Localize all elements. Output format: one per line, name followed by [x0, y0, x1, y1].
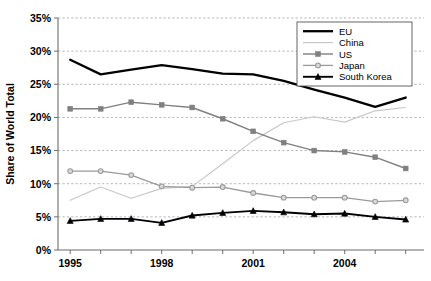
data-point-marker-square: [373, 155, 378, 160]
data-point-marker-diamond: [312, 195, 317, 200]
legend-label: South Korea: [339, 71, 393, 82]
data-point-marker-square: [190, 105, 195, 110]
data-point-marker-diamond: [251, 191, 256, 196]
chart-container: 0%5%10%15%20%25%30%35% 1995199820012004 …: [0, 0, 431, 281]
x-tick-label: 2004: [333, 257, 357, 269]
y-tick-label: 0%: [36, 244, 52, 256]
data-point-marker-square: [316, 52, 321, 57]
series-line: [70, 102, 406, 168]
y-axis-title: Share of World Total: [4, 83, 16, 185]
data-point-marker-diamond: [68, 169, 73, 174]
y-axis-ticks: 0%5%10%15%20%25%30%35%: [30, 12, 58, 256]
data-point-marker-diamond: [220, 185, 225, 190]
data-point-marker-square: [281, 140, 286, 145]
x-tick-label: 1998: [150, 257, 174, 269]
y-tick-label: 5%: [36, 211, 52, 223]
x-tick-label: 1995: [59, 257, 83, 269]
x-tick-label: 2001: [242, 257, 266, 269]
y-tick-label: 25%: [30, 78, 52, 90]
data-point-marker-diamond: [129, 173, 134, 178]
series-line: [70, 171, 406, 201]
series-japan: [68, 169, 408, 204]
chart-legend[interactable]: EUChinaUSJapanSouth Korea: [297, 22, 412, 86]
data-point-marker-diamond: [98, 169, 103, 174]
data-point-marker-square: [159, 102, 164, 107]
data-point-marker-square: [68, 106, 73, 111]
data-point-marker-diamond: [403, 198, 408, 203]
data-point-marker-square: [342, 149, 347, 154]
line-chart: 0%5%10%15%20%25%30%35% 1995199820012004 …: [0, 0, 431, 281]
legend-label: Japan: [339, 60, 365, 71]
data-point-marker-diamond: [159, 184, 164, 189]
data-point-marker-diamond: [373, 199, 378, 204]
data-point-marker-square: [312, 148, 317, 153]
y-tick-label: 10%: [30, 178, 52, 190]
data-point-marker-diamond: [316, 63, 321, 68]
data-point-marker-square: [403, 166, 408, 171]
data-point-marker-diamond: [342, 195, 347, 200]
y-tick-label: 30%: [30, 45, 52, 57]
y-axis-title-text: Share of World Total: [4, 83, 16, 185]
legend-label: US: [339, 49, 352, 60]
y-tick-label: 15%: [30, 144, 52, 156]
data-point-marker-diamond: [190, 185, 195, 190]
data-point-marker-square: [98, 106, 103, 111]
data-point-marker-diamond: [281, 195, 286, 200]
y-tick-label: 35%: [30, 12, 52, 24]
data-point-marker-square: [220, 116, 225, 121]
series-us: [68, 100, 408, 171]
x-axis-ticks: 1995199820012004: [59, 250, 406, 269]
data-point-marker-square: [251, 129, 256, 134]
legend-label: China: [339, 37, 365, 48]
y-tick-label: 20%: [30, 111, 52, 123]
legend-label: EU: [339, 26, 352, 37]
data-point-marker-square: [129, 100, 134, 105]
